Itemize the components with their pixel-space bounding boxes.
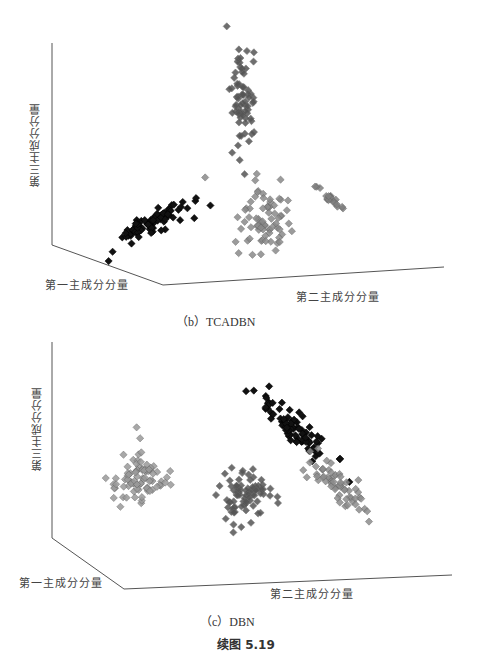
data-point [124, 463, 131, 470]
data-point [221, 470, 228, 477]
data-point [131, 494, 138, 501]
data-point [133, 424, 140, 431]
data-point [249, 466, 256, 473]
data-point [285, 220, 292, 227]
data-point [355, 477, 362, 484]
data-point [184, 205, 191, 212]
chart-panel-tcadbn: 第三主成分分量 第一主成分分量 第二主成分分量 （b）TCADBN [0, 0, 477, 330]
data-point [252, 177, 259, 184]
data-point [242, 119, 249, 126]
data-point [235, 250, 242, 257]
data-point [266, 383, 273, 390]
panel-caption: （c）DBN [200, 612, 255, 630]
chart-panel-dbn: 第三主成分分量 第一主成分分量 第二主成分分量 （c）DBN 续图 5.19 [0, 330, 477, 660]
data-point [300, 467, 307, 474]
data-point [137, 435, 144, 442]
data-point [242, 388, 249, 395]
data-point [232, 238, 239, 245]
data-point [128, 240, 135, 247]
data-point [267, 485, 274, 492]
figure-caption: 续图 5.19 [217, 635, 275, 652]
data-point [102, 475, 109, 482]
data-point [249, 251, 256, 258]
data-point [283, 207, 290, 214]
data-point [216, 482, 223, 489]
data-point [288, 228, 295, 235]
data-point [250, 387, 257, 394]
data-point [238, 523, 245, 530]
data-point [250, 58, 257, 65]
data-point [274, 493, 281, 500]
data-point [110, 494, 117, 501]
y-axis-label: 第二主成分分量 [270, 585, 354, 601]
data-point [155, 204, 162, 211]
data-point [236, 157, 243, 164]
data-point [277, 176, 284, 183]
data-point [250, 49, 257, 56]
data-point [319, 465, 326, 472]
data-point [241, 171, 248, 178]
data-point [105, 257, 112, 264]
z-axis-label: 第三主成分分量 [28, 103, 44, 187]
data-point [109, 248, 116, 255]
data-point [120, 451, 127, 458]
x-axis-label: 第一主成分分量 [19, 574, 103, 590]
data-point [247, 224, 254, 231]
y-axis-line [163, 267, 444, 285]
axes [52, 43, 444, 285]
data-point [202, 174, 209, 181]
data-point [230, 521, 237, 528]
y-axis-label: 第二主成分分量 [296, 288, 380, 304]
data-point [234, 214, 241, 221]
data-point [177, 217, 184, 224]
data-point [222, 515, 229, 522]
data-point [235, 46, 242, 53]
data-point [230, 529, 237, 536]
data-point [303, 474, 310, 481]
z-axis-label: 第三主成分分量 [30, 387, 46, 471]
data-point [120, 483, 127, 490]
data-point [257, 251, 264, 258]
data-points [105, 23, 347, 265]
data-point [284, 197, 291, 204]
x-axis-label: 第一主成分分量 [45, 276, 129, 292]
data-point [365, 518, 372, 525]
data-point [212, 491, 219, 498]
data-point [117, 503, 124, 510]
data-point [167, 467, 174, 474]
data-point [223, 23, 230, 30]
data-point [337, 455, 344, 462]
data-point [286, 406, 293, 413]
data-point [191, 215, 198, 222]
data-point [237, 225, 244, 232]
data-point [228, 464, 235, 471]
data-point [266, 492, 273, 499]
data-point [226, 477, 233, 484]
data-point [247, 198, 254, 205]
panel-caption: （b）TCADBN [176, 312, 255, 330]
data-point [207, 202, 214, 209]
scatter-plot-dbn [0, 330, 477, 660]
data-point [253, 170, 260, 177]
data-point [274, 499, 281, 506]
axes [52, 342, 452, 589]
data-point [229, 149, 236, 156]
data-point [245, 138, 252, 145]
data-point [243, 47, 250, 54]
data-point [247, 519, 254, 526]
data-point [272, 247, 279, 254]
data-point [234, 142, 241, 149]
data-points [102, 383, 372, 536]
